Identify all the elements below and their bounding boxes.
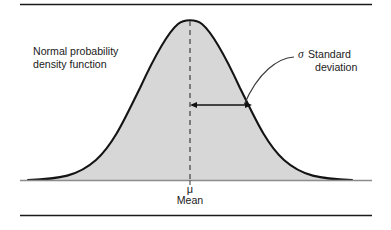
left-label-line1: Normal probability [33,45,119,57]
sigma-symbol: σ [298,48,305,60]
sigma-label-line2: deviation [315,61,358,73]
sigma-label-line1: Standard [308,48,351,60]
left-label-line2: density function [33,58,107,70]
distribution-diagram-svg: Normal probability density function σ St… [0,0,391,230]
mean-word-label: Mean [177,194,204,206]
normal-distribution-figure: Normal probability density function σ St… [0,0,391,230]
sigma-leader-line [244,57,294,105]
